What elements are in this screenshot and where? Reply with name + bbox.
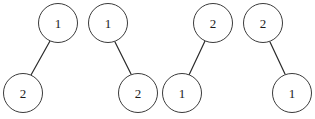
graph-node: 1 <box>162 73 202 113</box>
graph-node: 2 <box>118 73 158 113</box>
graph-node-label: 2 <box>210 17 217 30</box>
graph-node-label: 1 <box>179 87 186 100</box>
graph-edge <box>189 41 205 75</box>
graph-node: 2 <box>243 3 283 43</box>
graph-node-label: 2 <box>260 17 267 30</box>
graph-node-label: 1 <box>289 87 296 100</box>
graph-node: 1 <box>272 73 312 113</box>
graph-node: 1 <box>38 3 78 43</box>
graph-node-label: 2 <box>135 87 142 100</box>
graph-edge <box>31 41 50 75</box>
graph-node: 2 <box>3 73 43 113</box>
graph-node: 2 <box>193 3 233 43</box>
graph-diagram-canvas: 12122121 <box>0 0 315 119</box>
graph-node-label: 1 <box>55 17 62 30</box>
graph-node-label: 2 <box>20 87 27 100</box>
graph-edge <box>270 42 285 74</box>
graph-node-label: 1 <box>105 17 112 30</box>
graph-node: 1 <box>88 3 128 43</box>
graph-edge <box>115 42 131 74</box>
